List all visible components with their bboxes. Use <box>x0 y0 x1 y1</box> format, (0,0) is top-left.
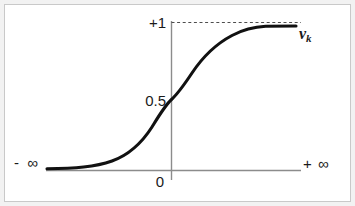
origin-label: 0 <box>152 174 168 189</box>
upper-asymptote-label: +1 <box>130 15 166 30</box>
curve-variable-subscript: k <box>306 32 312 44</box>
negative-infinity-label: - ∞ <box>14 155 40 170</box>
curve-variable-label: vk <box>299 26 312 44</box>
positive-infinity-label: + ∞ <box>303 156 330 171</box>
midpoint-label: 0.5 <box>128 93 166 108</box>
figure-root: +1 0.5 0 - ∞ + ∞ vk <box>0 0 355 206</box>
